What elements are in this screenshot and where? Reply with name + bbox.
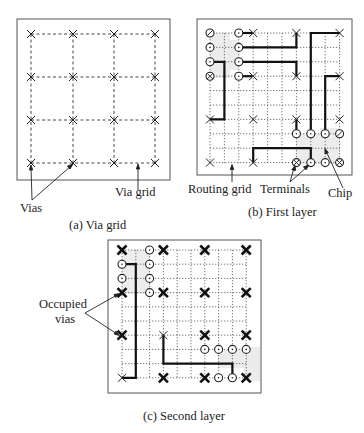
panel-a-border	[17, 19, 170, 180]
caption-b: (b) First layer	[248, 206, 317, 219]
chip-label: Chip	[328, 187, 352, 200]
vias-label: Vias	[20, 202, 42, 215]
panel-c-second-layer	[85, 240, 261, 393]
caption-c: (c) Second layer	[143, 410, 225, 423]
occupied-vias-label-line2: vias	[55, 313, 75, 326]
via-grid-label: Via grid	[115, 186, 156, 199]
routing-grid-label: Routing grid	[188, 183, 252, 196]
panel-b-first-layer	[197, 19, 352, 188]
caption-a: (a) Via grid	[69, 219, 126, 232]
terminals-label: Terminals	[260, 183, 310, 196]
panel-a-via-grid	[17, 19, 170, 200]
occupied-vias-label-line1: Occupied	[39, 298, 87, 311]
